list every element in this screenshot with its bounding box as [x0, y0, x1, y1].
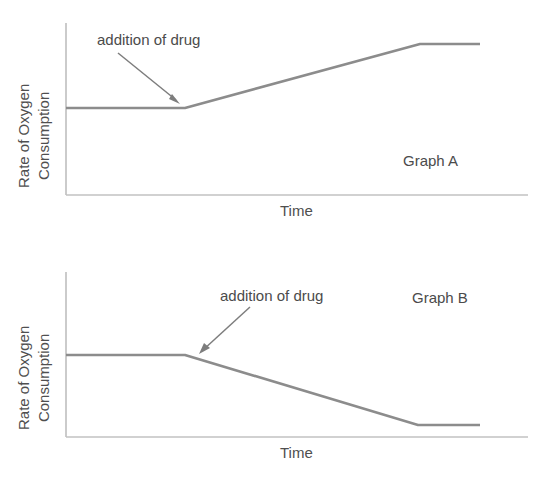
graph-a-title: Graph A	[403, 152, 458, 169]
graph-b-panel: Rate of Oxygen Consumption addition of d…	[0, 240, 543, 477]
graph-b-title: Graph B	[412, 289, 468, 306]
graph-a-annotation-label: addition of drug	[97, 31, 200, 48]
graph-a-data-line	[66, 44, 480, 108]
graph-a-panel: Rate of Oxygen Consumption addition of d…	[0, 0, 543, 240]
graph-a-y-axis-title-line1: Rate of Oxygen	[14, 84, 34, 188]
graph-b-annotation-label: addition of drug	[220, 287, 323, 304]
graph-a-annotation-arrow	[118, 53, 180, 104]
two-panel-line-chart-figure: Rate of Oxygen Consumption addition of d…	[0, 0, 543, 477]
graph-a-y-axis-title-line2: Consumption	[34, 84, 54, 188]
graph-b-data-line	[66, 355, 480, 425]
graph-b-y-axis-title: Rate of Oxygen Consumption	[14, 326, 53, 430]
graph-b-x-axis-title: Time	[280, 444, 313, 461]
graph-b-y-axis-title-line1: Rate of Oxygen	[14, 326, 34, 430]
graph-a-x-axis-title: Time	[280, 202, 313, 219]
graph-b-y-axis-title-line2: Consumption	[34, 326, 54, 430]
graph-b-annotation-arrow	[199, 307, 250, 354]
graph-a-plot	[0, 0, 543, 240]
graph-a-y-axis-title: Rate of Oxygen Consumption	[14, 84, 53, 188]
graph-b-plot	[0, 240, 543, 477]
